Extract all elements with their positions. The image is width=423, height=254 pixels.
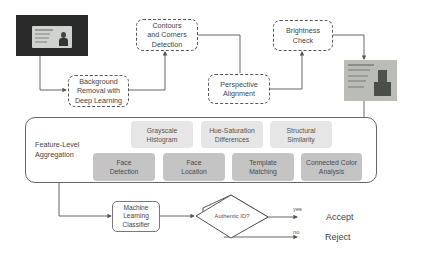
- feature-label: Template Matching: [243, 158, 283, 176]
- input-id-image: [16, 15, 88, 56]
- feature-face-location: Face Location: [163, 153, 225, 181]
- decision-question: Authentic ID?: [210, 213, 254, 219]
- feature-label: Face Location: [177, 158, 211, 176]
- aggregation-title: Feature-Level Aggregation: [35, 140, 87, 160]
- background-removal-label: Background Removal with Deep Learning: [69, 77, 128, 106]
- feature-label: Grayscale Histogram: [139, 126, 185, 144]
- no-label: no: [293, 229, 299, 235]
- accept-outcome: Accept: [326, 212, 354, 222]
- feature-label: Connected Color Analysis: [304, 158, 360, 176]
- contours-label: Contours and Corners Detection: [146, 21, 188, 50]
- ml-classifier-box: Machine Learning Classifier: [112, 201, 160, 232]
- background-removal-step: Background Removal with Deep Learning: [68, 75, 129, 107]
- feature-face-detection: Face Detection: [93, 153, 155, 181]
- processed-id-image: [344, 60, 397, 101]
- brightness-label: Brightness Check: [285, 26, 321, 45]
- feature-structural-similarity: Structural Similarity: [270, 121, 332, 148]
- feature-grayscale-histogram: Grayscale Histogram: [131, 121, 193, 148]
- perspective-label: Perspective Alignment: [219, 80, 259, 99]
- brightness-step: Brightness Check: [273, 20, 333, 51]
- feature-label: Face Detection: [104, 158, 144, 176]
- feature-label: Hue-Saturation Differences: [204, 126, 260, 144]
- contours-step: Contours and Corners Detection: [136, 19, 198, 51]
- yes-label: yes: [293, 206, 302, 212]
- perspective-step: Perspective Alignment: [208, 74, 270, 104]
- feature-label: Structural Similarity: [281, 126, 321, 144]
- feature-hue-saturation: Hue-Saturation Differences: [201, 121, 263, 148]
- feature-connected-color-analysis: Connected Color Analysis: [301, 153, 362, 181]
- reject-outcome: Reject: [325, 232, 351, 242]
- classifier-label: Machine Learning Classifier: [116, 204, 156, 230]
- feature-template-matching: Template Matching: [232, 153, 294, 181]
